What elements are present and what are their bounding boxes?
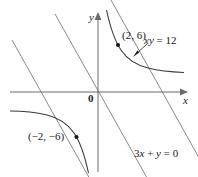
y-axis-arrow-icon <box>95 12 102 20</box>
y-axis-label: y <box>89 12 94 23</box>
point-marker-neg2-neg6 <box>74 135 78 139</box>
curve-equation-value: = 12 <box>154 34 177 46</box>
tangent-line-upper <box>111 0 198 156</box>
curve-equation-variables: xy <box>144 34 154 46</box>
hyperbola-branch-quadrant-3 <box>10 111 89 173</box>
curve-label-arrow-icon <box>133 51 139 57</box>
point-label-lower: (−2, −6) <box>28 131 64 142</box>
x-axis-label: x <box>183 95 188 106</box>
origin-label: 0 <box>88 93 94 104</box>
math-figure: y x 0 (2, 6) (−2, −6) xy = 12 3x + y = 0 <box>0 0 198 177</box>
curve-equation-label: xy = 12 <box>144 35 176 46</box>
tangent-line-lower <box>12 40 100 177</box>
point-marker-2-6 <box>116 43 120 47</box>
line-equation-value: = 0 <box>161 147 178 159</box>
line-equation-operator: + <box>144 147 156 159</box>
line-equation-label: 3x + y = 0 <box>134 148 178 159</box>
point-label-upper: (2, 6) <box>122 30 146 41</box>
